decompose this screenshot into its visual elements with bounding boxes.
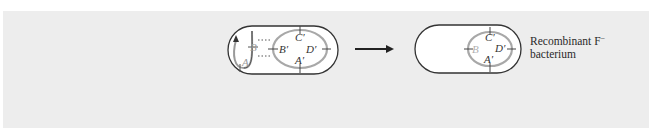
label-d-prime-right: D′ [494, 42, 506, 54]
label-a-prime: A′ [294, 54, 305, 66]
caption-line1: Recombinant F− [530, 32, 605, 48]
label-d-prime: D′ [305, 43, 317, 55]
caption-line2: bacterium [530, 48, 605, 61]
transition-arrow-icon [355, 45, 394, 53]
label-donor-a: A [241, 56, 249, 68]
label-a-prime-right: A′ [483, 53, 494, 65]
right-cell: B C′ D′ A′ [415, 25, 521, 73]
recombinant-caption: Recombinant F− bacterium [530, 32, 605, 61]
label-b-prime: B′ [279, 43, 289, 55]
label-c-prime-right: C′ [485, 31, 495, 43]
recombination-diagram: B A B′ C′ D′ A′ B C′ D′ A′ [0, 0, 659, 131]
caption-superscript: − [601, 34, 606, 43]
label-b-recombined: B [472, 43, 479, 55]
label-c-prime: C′ [295, 31, 305, 43]
label-donor-b: B [250, 41, 257, 53]
left-cell: B A B′ C′ D′ A′ [228, 26, 338, 74]
